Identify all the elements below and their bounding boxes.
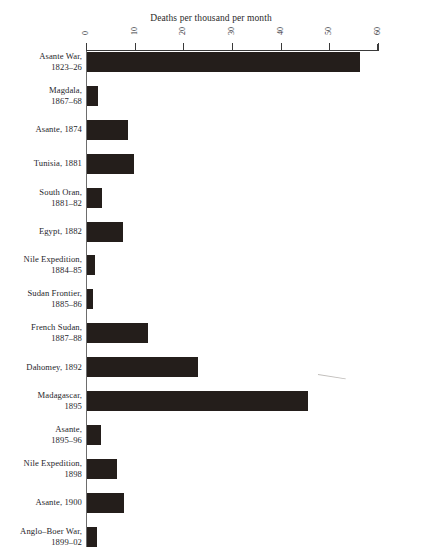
bar-category-label: South Oran, 1881–82 <box>39 187 82 209</box>
x-tick-label: 30 <box>228 27 236 35</box>
bar <box>87 52 360 72</box>
x-tick-mark <box>329 43 330 51</box>
bar-category-label: French Sudan, 1887–88 <box>31 322 82 344</box>
bar-row: Nile Expedition, 1898 <box>0 459 422 479</box>
bar-row: Anglo–Boer War, 1899–02 <box>0 527 422 547</box>
bar <box>87 357 198 377</box>
bar <box>87 222 123 242</box>
bar-row: Asante, 1874 <box>0 120 422 140</box>
bar-row: Egypt, 1882 <box>0 222 422 242</box>
bar-row: Tunisia, 1881 <box>0 154 422 174</box>
bar-category-label: Tunisia, 1881 <box>34 158 82 169</box>
bar-category-label: Sudan Frontier, 1885–86 <box>27 288 82 310</box>
bar-row: Asante, 1895–96 <box>0 425 422 445</box>
bar <box>87 86 98 106</box>
bar-row: Asante War, 1823–26 <box>0 52 422 72</box>
bar <box>87 188 102 208</box>
x-tick-label: 60 <box>374 27 382 35</box>
x-tick-mark <box>232 43 233 51</box>
bar <box>87 289 93 309</box>
bar-row: South Oran, 1881–82 <box>0 188 422 208</box>
x-tick-label: 50 <box>325 27 333 35</box>
bar-category-label: Nile Expedition, 1898 <box>24 458 82 480</box>
bar-category-label: Asante, 1874 <box>35 124 82 135</box>
bar-row: Asante, 1900 <box>0 493 422 513</box>
bar-category-label: Dahomey, 1892 <box>26 362 82 373</box>
x-tick-mark <box>135 43 136 51</box>
bar-category-label: Nile Expedition, 1884–85 <box>24 254 82 276</box>
x-tick-mark <box>378 43 379 51</box>
bar <box>87 459 117 479</box>
bar <box>87 527 97 547</box>
bar <box>87 425 101 445</box>
bar <box>87 154 134 174</box>
bar-row: Magdala, 1867–68 <box>0 86 422 106</box>
bar-category-label: Egypt, 1882 <box>39 226 82 237</box>
bar-row: Madagascar, 1895 <box>0 391 422 411</box>
bar-category-label: Anglo–Boer War, 1899–02 <box>20 526 82 548</box>
bar-row: Dahomey, 1892 <box>0 357 422 377</box>
bar-row: Sudan Frontier, 1885–86 <box>0 289 422 309</box>
bar <box>87 493 124 513</box>
bar-category-label: Asante, 1895–96 <box>51 424 82 446</box>
x-tick-mark <box>183 43 184 51</box>
bar <box>87 120 128 140</box>
x-tick-label: 10 <box>131 27 139 35</box>
bar-category-label: Asante War, 1823–26 <box>39 51 82 73</box>
bar-row: Nile Expedition, 1884–85 <box>0 255 422 275</box>
x-tick-label: 0 <box>82 31 90 35</box>
x-tick-label: 40 <box>277 27 285 35</box>
x-tick-mark <box>86 43 87 51</box>
bar-category-label: Madagascar, 1895 <box>38 390 82 412</box>
x-tick-mark <box>281 43 282 51</box>
x-tick-label: 20 <box>179 27 187 35</box>
bar <box>87 255 95 275</box>
bar <box>87 391 308 411</box>
bar-row: French Sudan, 1887–88 <box>0 323 422 343</box>
bar-category-label: Asante, 1900 <box>35 497 82 508</box>
bar <box>87 323 148 343</box>
bar-category-label: Magdala, 1867–68 <box>49 85 82 107</box>
